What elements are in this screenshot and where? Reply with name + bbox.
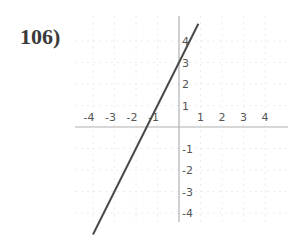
x-tick-label: -4 [84, 111, 95, 124]
x-tick-label: 4 [262, 111, 269, 124]
x-tick-label: -2 [127, 111, 138, 124]
y-tick-label: 1 [182, 100, 189, 113]
y-tick-label: 2 [182, 78, 189, 91]
x-tick-label: 1 [197, 111, 204, 124]
x-tick-labels: -4-3-2-11234 [84, 111, 269, 124]
y-tick-label: -1 [182, 143, 193, 156]
y-tick-label: -3 [182, 186, 193, 199]
y-tick-label: -4 [182, 207, 193, 220]
y-tick-label: 3 [182, 57, 189, 70]
coordinate-plane: -4-3-2-11234 4321-1-2-3-4 [0, 0, 301, 250]
x-tick-label: -3 [105, 111, 116, 124]
plotted-line [93, 24, 198, 235]
x-tick-label: 2 [219, 111, 226, 124]
y-tick-label: -2 [182, 164, 193, 177]
x-tick-label: 3 [240, 111, 247, 124]
